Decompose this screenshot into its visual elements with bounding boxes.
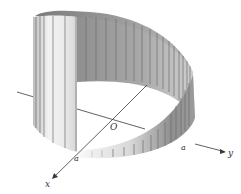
a-label-y: a	[181, 143, 186, 152]
y-axis-arrowhead	[220, 149, 226, 154]
cylinder-front-post	[33, 16, 77, 153]
y-axis-negative	[17, 92, 34, 97]
y-axis-label: y	[227, 148, 234, 158]
origin-label: O	[110, 122, 118, 132]
y-axis	[195, 144, 222, 151]
cylinder-diagram: O a a x y	[0, 0, 241, 194]
a-label-x: a	[74, 154, 79, 163]
cylinder-back-wall	[77, 16, 195, 118]
x-axis-label: x	[45, 179, 50, 189]
z-axis-line	[113, 85, 147, 119]
